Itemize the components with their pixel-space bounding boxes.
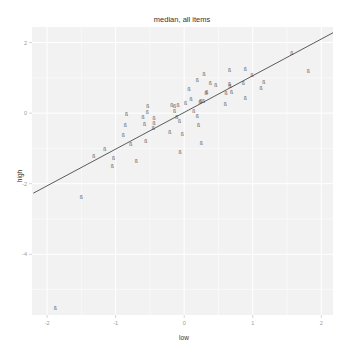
data-point: ß [92, 153, 95, 159]
data-point: ß [262, 79, 265, 85]
data-point: ß [187, 86, 190, 92]
data-point: ß [181, 131, 184, 137]
data-point: ß [307, 68, 310, 74]
data-point: ß [224, 101, 227, 107]
chart-title: median, all items [154, 15, 211, 24]
x-tick-label: 1 [251, 320, 254, 326]
data-point: ß [214, 82, 217, 88]
x-axis-label: low [179, 334, 189, 341]
data-point: ß [205, 90, 208, 96]
data-point: ß [143, 121, 146, 127]
data-point: ß [244, 95, 247, 101]
data-point: ß [177, 102, 180, 108]
x-tick-label: -1 [113, 320, 118, 326]
data-point: ß [146, 109, 149, 115]
data-point: ß [142, 114, 145, 120]
data-point: ß [197, 122, 200, 128]
x-axis-ticks: -2-1012 [45, 315, 323, 326]
x-tick-label: -2 [45, 320, 50, 326]
x-tick-label: 2 [320, 320, 323, 326]
data-point: ß [54, 305, 57, 311]
data-point: ß [112, 155, 115, 161]
data-point: ß [244, 66, 247, 72]
data-point: ß [124, 122, 127, 128]
data-point: ß [228, 67, 231, 73]
x-tick-label: 0 [183, 320, 186, 326]
y-tick-label: 0 [24, 110, 27, 116]
data-point: ß [230, 89, 233, 95]
data-point: ß [203, 71, 206, 77]
data-point: ß [122, 132, 125, 138]
data-point: ß [196, 113, 199, 119]
data-point: ß [184, 100, 187, 106]
data-point: ß [178, 118, 181, 124]
data-point: ß [129, 141, 132, 147]
data-point: ß [190, 96, 193, 102]
scatter-chart: ßßßßßßßßßßßßßßßßßßßßßßßßßßßßßßßßßßßßßßßß… [0, 0, 350, 360]
data-point: ß [179, 149, 182, 155]
plot-panel [32, 27, 333, 315]
data-point: ß [125, 111, 128, 117]
data-point: ß [135, 158, 138, 164]
y-tick-label: -4 [22, 251, 27, 257]
data-point: ß [80, 194, 83, 200]
data-point: ß [209, 80, 212, 86]
data-point: ß [259, 85, 262, 91]
data-point: ß [200, 140, 203, 146]
y-tick-label: 2 [24, 40, 27, 46]
data-point: ß [111, 163, 114, 169]
y-axis-label: high [16, 169, 24, 182]
y-axis-ticks: 20-2-4 [22, 40, 32, 258]
data-point: ß [103, 146, 106, 152]
data-point: ß [168, 129, 171, 135]
data-point: ß [196, 77, 199, 83]
data-point: ß [144, 138, 147, 144]
